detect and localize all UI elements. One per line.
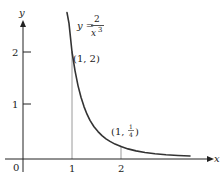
x-axis-label: x <box>214 153 220 164</box>
function-label: y = 2 x 3 <box>76 14 104 38</box>
function-label-exponent: 3 <box>98 26 102 34</box>
point-label-den: 4 <box>129 131 133 138</box>
point-label-open: (1, <box>111 126 124 137</box>
x-tick-label-1: 1 <box>69 163 75 174</box>
origin-label: 0 <box>13 162 19 173</box>
y-tick-label-2: 2 <box>12 47 18 58</box>
function-plot: y x 0 1 2 2 1 y = 2 x 3 (1, 2) (1, 1 4 ) <box>0 0 220 178</box>
function-label-numerator: 2 <box>94 14 100 24</box>
y-axis-label: y <box>18 7 25 18</box>
y-axis-arrow-icon <box>20 20 26 27</box>
y-tick-label-1: 1 <box>12 99 18 110</box>
point-label-close: ) <box>135 126 139 137</box>
x-axis-arrow-icon <box>207 156 214 162</box>
x-tick-label-2: 2 <box>118 163 124 174</box>
point-label-num: 1 <box>129 123 133 130</box>
point-label-2-quarter: (1, 1 4 ) <box>111 123 139 138</box>
function-label-denominator: x <box>91 28 96 38</box>
point-label-1-2: (1, 2) <box>73 53 100 64</box>
